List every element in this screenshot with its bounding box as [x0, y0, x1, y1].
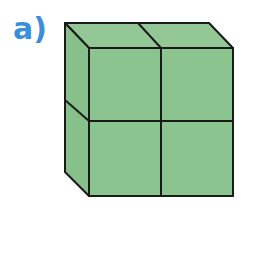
cube-stack-figure	[0, 0, 255, 271]
